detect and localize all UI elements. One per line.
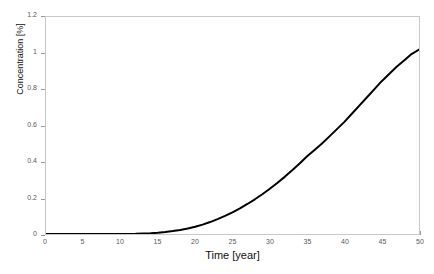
y-tick-label: 0.2 (27, 194, 37, 201)
figure-canvas: 00.20.40.60.811.2 05101520253035404550 T… (0, 0, 434, 274)
x-tick-label: 45 (379, 238, 387, 245)
y-tick-label: 1.2 (27, 11, 37, 18)
x-tick-label: 20 (191, 238, 199, 245)
x-tick-label: 50 (416, 238, 424, 245)
y-tick-label: 0 (33, 230, 37, 237)
y-tick-label: 0.4 (27, 157, 37, 164)
x-tick-label: 25 (229, 238, 237, 245)
concentration-curve (46, 17, 419, 234)
x-axis-title: Time [year] (45, 249, 420, 261)
x-tick-label: 5 (81, 238, 85, 245)
series-line-concentration (46, 50, 419, 234)
x-tick-mark (420, 231, 421, 235)
x-tick-label: 15 (154, 238, 162, 245)
x-tick-label: 35 (304, 238, 312, 245)
x-tick-label: 10 (116, 238, 124, 245)
y-tick-label: 0.8 (27, 84, 37, 91)
plot-area (45, 16, 420, 235)
y-tick-mark (41, 235, 45, 236)
y-tick-label: 1 (33, 48, 37, 55)
x-tick-label: 0 (43, 238, 47, 245)
x-tick-label: 40 (341, 238, 349, 245)
y-axis-title: Concentration [%] (15, 0, 25, 131)
y-tick-label: 0.6 (27, 121, 37, 128)
x-tick-label: 30 (266, 238, 274, 245)
cut-off-caption (18, 266, 418, 274)
